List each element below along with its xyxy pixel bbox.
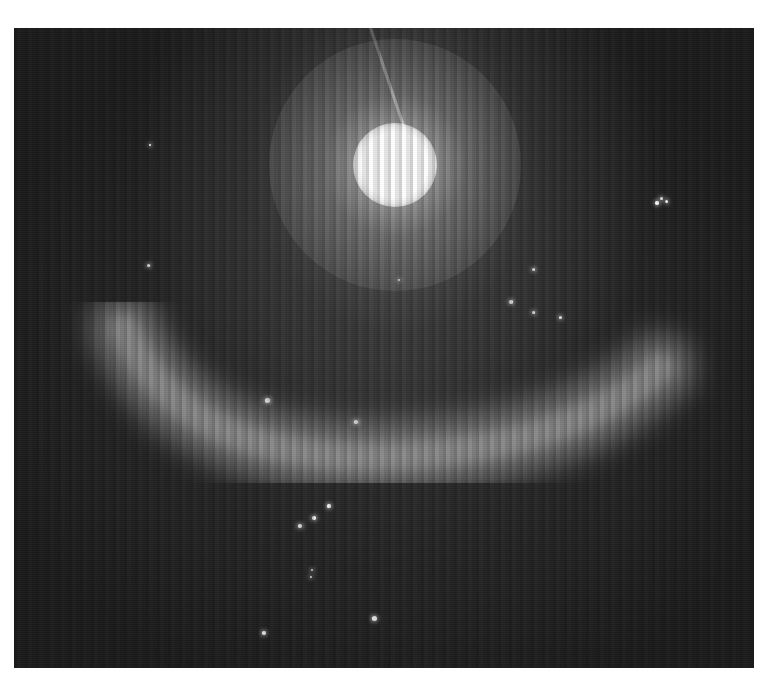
astronomical-image xyxy=(14,28,754,668)
noise-overlay xyxy=(14,28,754,668)
